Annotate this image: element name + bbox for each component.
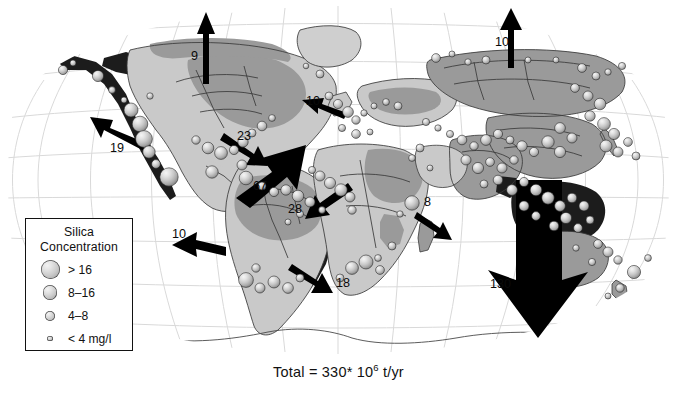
flux-label-10-pacific: 10 xyxy=(172,228,186,241)
legend-row-lt4: < 4 mg/l xyxy=(26,327,132,350)
sphere-icon-large xyxy=(41,260,60,279)
legend-row-8to16: 8–16 xyxy=(26,281,132,304)
legend-title-line2: Concentration xyxy=(26,240,132,255)
legend-swatch-cell xyxy=(35,285,65,300)
legend-label-lt4: < 4 mg/l xyxy=(68,332,111,346)
total-flux-caption: Total = 330* 106 t/yr xyxy=(0,362,677,380)
legend-label-gt16: > 16 xyxy=(68,263,92,277)
flux-label-28: 28 xyxy=(288,203,302,216)
legend-row-gt16: > 16 xyxy=(26,258,132,281)
legend-swatch-cell xyxy=(35,311,65,321)
flux-label-10-europe: 10 xyxy=(306,95,320,108)
flux-label-9: 9 xyxy=(191,50,198,63)
legend-title: Silica Concentration xyxy=(26,219,132,254)
flux-label-19: 19 xyxy=(110,142,124,155)
flux-label-18: 18 xyxy=(336,277,350,290)
sphere-icon-tiny xyxy=(47,336,52,341)
flux-label-130: 130 xyxy=(490,278,511,291)
flux-label-23: 23 xyxy=(237,130,251,143)
sphere-icon-small xyxy=(45,311,55,321)
silica-concentration-legend: Silica Concentration > 16 8–16 4–8 xyxy=(25,218,133,351)
sphere-icon-medium xyxy=(43,285,58,300)
flux-label-8: 8 xyxy=(424,196,431,209)
legend-label-4to8: 4–8 xyxy=(68,309,88,323)
caption-suffix: t/yr xyxy=(379,364,404,380)
flux-label-67: 67 xyxy=(253,180,267,193)
legend-swatch-cell xyxy=(35,260,65,279)
legend-rows: > 16 8–16 4–8 < 4 mg/l xyxy=(26,258,132,350)
flux-label-10-siberia: 10 xyxy=(495,36,509,49)
legend-swatch-cell xyxy=(35,336,65,341)
basin-greenland xyxy=(297,26,361,67)
legend-label-8to16: 8–16 xyxy=(68,286,95,300)
caption-prefix: Total = 330* 10 xyxy=(273,364,373,380)
silica-flux-figure: 9 19 23 10 10 67 10 18 28 8 130 Silica C… xyxy=(0,0,677,403)
legend-row-4to8: 4–8 xyxy=(26,304,132,327)
legend-title-line1: Silica xyxy=(26,225,132,240)
